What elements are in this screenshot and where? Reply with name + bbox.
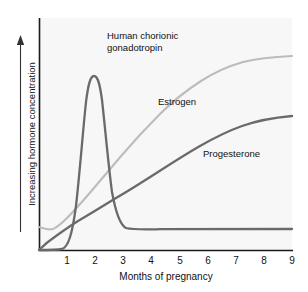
hormone-concentration-chart: Increasing hormone concentration Human c… [0,0,308,292]
series-label-hcg-line2: gonadotropin [107,42,162,53]
x-tick-6: 6 [205,255,211,266]
x-tick-2: 2 [92,255,98,266]
x-tick-3: 3 [120,255,126,266]
x-tick-9: 9 [289,255,295,266]
series-label-estrogen: Estrogen [158,96,196,107]
plot-area-background [39,18,292,250]
x-tick-1: 1 [64,255,70,266]
x-tick-5: 5 [177,255,183,266]
x-tick-7: 7 [233,255,239,266]
series-label-hcg-line1: Human chorionic [107,30,179,41]
x-tick-8: 8 [261,255,267,266]
x-axis-title: Months of pregnancy [119,271,212,282]
x-tick-4: 4 [148,255,154,266]
y-axis-title: Increasing hormone concentration [26,62,37,206]
series-label-progesterone: Progesterone [203,148,260,159]
